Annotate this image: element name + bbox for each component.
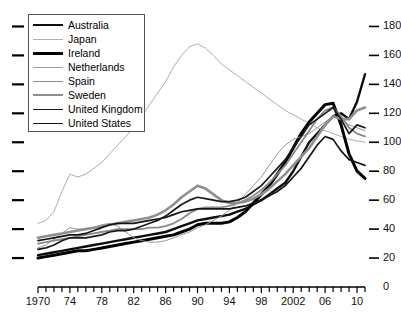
- y-axis-tick-label: 180: [383, 19, 401, 31]
- legend-swatch-icon: [33, 24, 63, 26]
- y-axis-tick-label: 100: [383, 135, 401, 147]
- line-chart: AustraliaJapanIrelandNetherlandsSpainSwe…: [0, 0, 401, 314]
- y-axis-tick-label: 60: [383, 193, 395, 205]
- legend-label: Spain: [68, 76, 95, 87]
- legend-label: Ireland: [68, 48, 100, 59]
- legend-item-netherlands[interactable]: Netherlands: [29, 60, 144, 74]
- y-axis-tick-label: 80: [383, 164, 395, 176]
- legend-label: United Kingdom: [68, 104, 143, 115]
- legend-swatch-icon: [33, 109, 63, 110]
- legend-label: Netherlands: [68, 62, 125, 73]
- legend-item-sweden[interactable]: Sweden: [29, 88, 144, 102]
- legend-label: Japan: [68, 34, 97, 45]
- legend-label: Australia: [68, 20, 109, 31]
- y-axis-tick-label: 20: [383, 251, 395, 263]
- legend-item-spain[interactable]: Spain: [29, 74, 144, 88]
- y-axis-tick-label: 40: [383, 222, 395, 234]
- y-axis-tick-label: 160: [383, 48, 401, 60]
- legend-swatch-icon: [33, 52, 63, 55]
- legend-swatch-icon: [33, 94, 63, 96]
- legend-item-united-kingdom[interactable]: United Kingdom: [29, 102, 144, 116]
- legend-label: United States: [68, 118, 131, 129]
- legend-swatch-icon: [33, 67, 63, 68]
- legend-item-united-states[interactable]: United States: [29, 116, 144, 130]
- legend-item-australia[interactable]: Australia: [29, 18, 144, 32]
- legend-swatch-icon: [33, 123, 63, 124]
- y-axis-tick-label: 120: [383, 106, 401, 118]
- legend-item-japan[interactable]: Japan: [29, 32, 144, 46]
- legend-item-ireland[interactable]: Ireland: [29, 46, 144, 60]
- x-axis-tick-label: 10: [335, 295, 379, 307]
- legend-label: Sweden: [68, 90, 106, 101]
- y-axis-tick-label: 0: [383, 280, 389, 292]
- legend-swatch-icon: [33, 39, 63, 40]
- legend: AustraliaJapanIrelandNetherlandsSpainSwe…: [28, 14, 145, 132]
- legend-swatch-icon: [33, 81, 63, 82]
- y-axis-tick-label: 140: [383, 77, 401, 89]
